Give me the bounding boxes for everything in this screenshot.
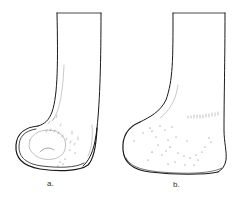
specimen-b-drawing bbox=[123, 13, 226, 174]
panel-b-label: b. bbox=[173, 180, 180, 189]
specimen-b-stipple bbox=[134, 126, 212, 166]
specimen-a-drawing bbox=[16, 13, 101, 171]
specimen-a-stipple bbox=[58, 150, 76, 167]
specimen-illustration bbox=[0, 0, 237, 198]
panel-a-label: a. bbox=[47, 179, 54, 188]
